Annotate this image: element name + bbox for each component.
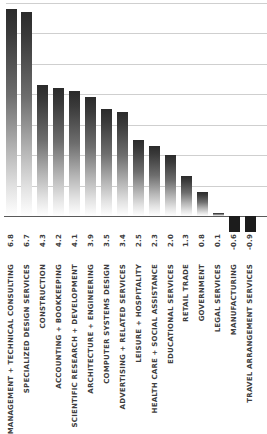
bar	[181, 176, 192, 216]
bar-value-label: 3.5	[103, 234, 111, 247]
axis-tick-group: 0.8GOVERNMENT	[194, 232, 210, 429]
bar	[117, 112, 128, 216]
category-label: COMPUTER SYSTEMS DESIGN	[103, 264, 111, 384]
bar	[85, 97, 96, 216]
category-label: RETAIL TRADE	[182, 264, 190, 322]
category-label: ACCOUNTING + BOOKKEEPING	[55, 264, 63, 389]
category-label: LEISURE + HOSPITALITY	[135, 264, 143, 363]
bar	[197, 192, 208, 216]
bar-value-label: 6.8	[7, 234, 15, 247]
axis-tick-group: 2.0EDUCATIONAL SERVICES	[163, 232, 179, 429]
bar-value-label: 4.1	[71, 234, 79, 247]
bar-series	[0, 0, 267, 232]
bar	[213, 213, 224, 216]
bar	[245, 216, 256, 232]
axis-tick-group: 3.4ADVERTISING + RELATED SERVICES	[115, 232, 131, 429]
bar	[229, 216, 240, 232]
axis-tick-group: 3.5COMPUTER SYSTEMS DESIGN	[99, 232, 115, 429]
category-label: SCIENTIFIC RESEARCH + DEVELOPMENT	[71, 264, 79, 427]
category-label: ADVERTISING + RELATED SERVICES	[119, 264, 127, 409]
axis-tick-group: 4.2ACCOUNTING + BOOKKEEPING	[51, 232, 67, 429]
bar-value-label: 6.7	[23, 234, 31, 247]
bar	[133, 140, 144, 216]
category-label: LEGAL SERVICES	[214, 264, 222, 332]
category-label: MANUFACTURING	[230, 264, 238, 335]
category-label: EDUCATIONAL SERVICES	[167, 264, 175, 364]
axis-tick-group: -0.6MANUFACTURING	[226, 232, 242, 429]
axis-tick-group: -0.9TRAVEL ARRANGEMENT SERVICES	[242, 232, 258, 429]
bar	[165, 155, 176, 216]
bar	[149, 146, 160, 216]
bar	[6, 9, 17, 216]
axis-tick-group: 2.3HEALTH CARE + SOCIAL ASSISTANCE	[147, 232, 163, 429]
bar-value-label: -0.9	[246, 234, 254, 250]
axis-tick-group: 6.7SPECIALIZED DESIGN SERVICES	[19, 232, 35, 429]
axis-tick-group: 0.1LEGAL SERVICES	[210, 232, 226, 429]
category-label: SPECIALIZED DESIGN SERVICES	[23, 264, 31, 393]
bar-value-label: 4.3	[39, 234, 47, 247]
bar-value-label: 0.8	[198, 234, 206, 247]
bar-value-label: 2.3	[151, 234, 159, 247]
axis-tick-group: 4.3CONSTRUCTION	[35, 232, 51, 429]
bar-value-label: -0.6	[230, 234, 238, 250]
axis-tick-group: 2.5LEISURE + HOSPITALITY	[131, 232, 147, 429]
category-label: HEALTH CARE + SOCIAL ASSISTANCE	[151, 264, 159, 413]
category-label: GOVERNMENT	[198, 264, 206, 321]
category-label: ARCHITECTURE + ENGINEERING	[87, 264, 95, 394]
bar-value-label: 4.2	[55, 234, 63, 247]
axis-tick-group: 3.9ARCHITECTURE + ENGINEERING	[83, 232, 99, 429]
bar-value-label: 2.0	[167, 234, 175, 247]
axis-tick-group: 6.8MANAGEMENT + TECHNICAL CONSULTING	[3, 232, 19, 429]
bar	[37, 85, 48, 216]
category-label: TRAVEL ARRANGEMENT SERVICES	[246, 264, 254, 403]
category-label: CONSTRUCTION	[39, 264, 47, 329]
category-label: MANAGEMENT + TECHNICAL CONSULTING	[7, 264, 15, 434]
bar	[101, 109, 112, 216]
axis-tick-group: 4.1SCIENTIFIC RESEARCH + DEVELOPMENT	[67, 232, 83, 429]
bar-value-label: 2.5	[135, 234, 143, 247]
bar-value-label: 1.3	[182, 234, 190, 247]
bar	[53, 88, 64, 216]
plot-area	[0, 0, 267, 232]
bar	[69, 91, 80, 216]
bar-value-label: 3.9	[87, 234, 95, 247]
axis-tick-group: 1.3RETAIL TRADE	[178, 232, 194, 429]
bar-value-label: 3.4	[119, 234, 127, 247]
bar-value-label: 0.1	[214, 234, 222, 247]
axis-label-band: 6.8MANAGEMENT + TECHNICAL CONSULTING6.7S…	[0, 232, 267, 429]
bar	[21, 12, 32, 216]
